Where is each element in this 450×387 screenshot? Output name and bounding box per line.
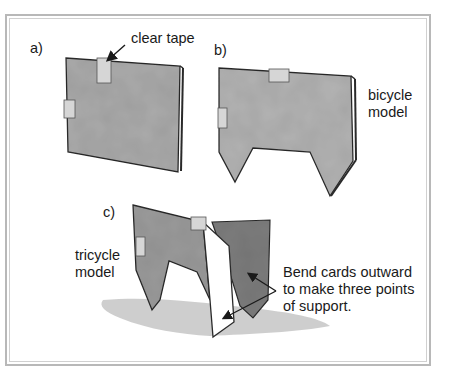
tape-top-b: [269, 69, 289, 82]
clear-tape-callout: clear tape: [131, 30, 195, 47]
clear-tape-arrow: [108, 45, 125, 60]
tape-side-c: [136, 237, 145, 256]
tricycle-caption-line2: model: [75, 264, 115, 281]
panel-c-label: c): [103, 204, 115, 221]
tricycle-caption-line1: tricycle: [75, 247, 120, 264]
support-callout-line3: of support.: [283, 298, 352, 315]
card-b: [218, 68, 356, 196]
bicycle-caption-line1: bicycle: [368, 87, 412, 104]
panel-a-label: a): [30, 40, 43, 57]
bicycle-caption-line2: model: [368, 104, 408, 121]
tape-top-a: [97, 58, 111, 83]
tape-side-b: [218, 108, 227, 128]
tape-side-a: [64, 100, 75, 118]
support-callout-line1: Bend cards outward: [283, 264, 412, 281]
support-callout-line2: to make three points: [283, 281, 414, 298]
card-a: [64, 58, 183, 172]
panel-b-label: b): [214, 42, 227, 59]
tape-top-c: [191, 217, 206, 230]
